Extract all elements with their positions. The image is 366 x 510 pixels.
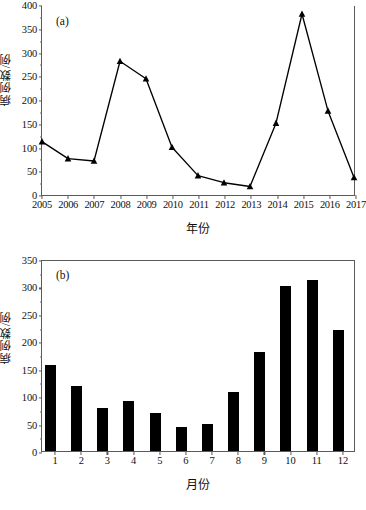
x-tick-mark [172,195,173,199]
y-tick-label: 50 [27,420,42,431]
x-tick-mark [107,451,108,455]
x-tick-label: 2009 [137,200,157,211]
data-point-marker [351,174,358,180]
bar [280,286,291,451]
y-tick-label: 350 [22,25,42,36]
y-tick-label: 250 [22,72,42,83]
data-point-marker [273,120,280,126]
x-tick-mark [55,451,56,455]
x-tick-label: 3 [105,456,110,467]
data-point-marker [169,144,176,150]
panel-b: 病例数/例 (b) 050100150200250300350 12345678… [0,252,361,510]
x-tick-label: 2007 [84,200,104,211]
x-tick-mark [159,451,160,455]
x-tick-mark [225,195,226,199]
x-tick-mark [303,195,304,199]
x-tick-mark [355,195,356,199]
data-point-marker [299,10,306,16]
data-point-marker [39,138,46,144]
bar [150,413,161,451]
x-tick-mark [329,195,330,199]
bar [202,424,213,451]
x-tick-label: 2013 [241,200,261,211]
y-tick-label: 300 [22,48,42,59]
x-tick-mark [277,195,278,199]
x-tick-label: 2008 [111,200,131,211]
x-tick-mark [120,195,121,199]
x-tick-mark [94,195,95,199]
panel-a-x-axis-label: 年份 [41,223,355,235]
x-tick-label: 2005 [32,200,52,211]
x-tick-mark [146,195,147,199]
x-tick-label: 12 [338,456,349,467]
y-tick-label: 200 [22,96,42,107]
x-tick-mark [316,451,317,455]
x-tick-label: 2016 [320,200,340,211]
x-tick-label: 9 [262,456,267,467]
y-tick-label: 50 [27,167,42,178]
bar [176,427,187,451]
bar [307,280,318,451]
panel-a-y-axis-label: 病例数/例 [1,52,13,106]
x-tick-mark [264,451,265,455]
panel-b-plot-area: 050100150200250300350 123456789101112 [41,260,355,452]
x-tick-mark [290,451,291,455]
y-tick-label: 150 [22,120,42,131]
data-point-marker [143,75,150,81]
x-tick-mark [251,195,252,199]
y-tick-label: 300 [22,283,42,294]
x-tick-mark [198,195,199,199]
x-tick-label: 2010 [163,200,183,211]
y-tick-label: 400 [22,1,42,12]
bar [254,352,265,451]
y-tick-label: 100 [22,393,42,404]
bar [71,386,82,451]
x-tick-label: 6 [183,456,188,467]
panel-b-y-axis-label: 病例数/例 [1,310,13,364]
x-tick-mark [185,451,186,455]
line-path [42,14,354,186]
x-tick-label: 5 [157,456,162,467]
bar [45,365,56,451]
panel-a-line-series [42,6,354,195]
data-point-marker [325,107,332,113]
x-tick-label: 1 [52,456,57,467]
panel-a: 病例数/例 (a) 050100150200250300350400 20052… [0,0,361,252]
x-tick-label: 2011 [189,200,208,211]
bar [228,392,239,451]
x-tick-mark [81,451,82,455]
x-tick-mark [238,451,239,455]
y-tick-label: 350 [22,256,42,267]
x-tick-label: 2015 [294,200,314,211]
y-tick-label: 100 [22,143,42,154]
data-point-marker [117,58,124,64]
y-tick-label: 200 [22,338,42,349]
x-tick-mark [133,451,134,455]
x-tick-label: 8 [236,456,241,467]
bar [123,401,134,451]
y-tick-label: 150 [22,365,42,376]
x-tick-label: 2012 [215,200,235,211]
x-tick-label: 2017 [346,200,366,211]
panel-a-plot-area: 050100150200250300350400 200520062007200… [41,6,355,196]
bar [333,330,344,451]
x-tick-label: 11 [312,456,322,467]
x-tick-mark [212,451,213,455]
y-tick-label: 250 [22,311,42,322]
panel-b-bars [42,261,354,451]
x-tick-mark [68,195,69,199]
y-tick-label: 0 [32,448,42,459]
x-tick-label: 2 [79,456,84,467]
panel-b-x-axis-label: 月份 [41,479,355,491]
x-tick-mark [342,451,343,455]
bar [97,408,108,451]
x-tick-label: 4 [131,456,136,467]
x-tick-label: 2006 [58,200,78,211]
x-tick-label: 2014 [268,200,288,211]
x-tick-mark [41,195,42,199]
x-tick-label: 10 [285,456,296,467]
x-tick-label: 7 [209,456,214,467]
